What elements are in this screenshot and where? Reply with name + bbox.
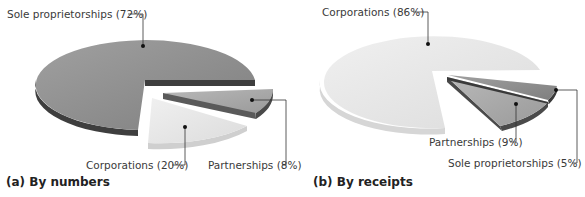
dot-a-sole — [141, 44, 145, 48]
caption-b: (b) By receipts — [313, 175, 413, 189]
dot-a-corp — [183, 125, 187, 129]
pie-charts: Sole proprietorships (72%) Corporations … — [0, 0, 585, 197]
label-b-sole: Sole proprietorships (5%) — [448, 157, 582, 169]
caption-a: (a) By numbers — [6, 175, 110, 189]
label-a-sole: Sole proprietorships (72%) — [7, 8, 147, 20]
chart-a: Sole proprietorships (72%) Corporations … — [6, 8, 302, 189]
dot-b-sole — [554, 88, 558, 92]
dot-b-corp — [426, 42, 430, 46]
label-a-corp: Corporations (20%) — [86, 159, 188, 171]
label-b-part: Partnerships (9%) — [429, 136, 523, 148]
label-b-corp: Corporations (86%) — [322, 6, 424, 18]
chart-b: Corporations (86%) Partnerships (9%) Sol… — [313, 6, 582, 189]
slice-a-sole-side — [145, 80, 255, 86]
label-a-part: Partnerships (8%) — [208, 159, 302, 171]
dot-a-part — [250, 98, 254, 102]
dot-b-part — [514, 102, 518, 106]
